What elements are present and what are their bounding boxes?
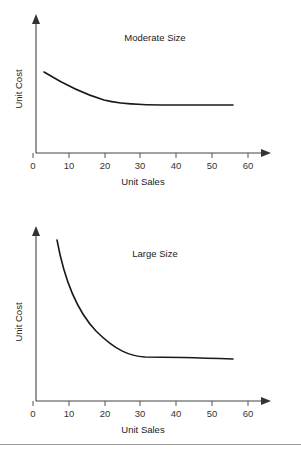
x-axis-title: Unit Sales (121, 176, 165, 187)
chart-large-size: 0 10 20 30 40 50 60 Unit Sales Unit Cost… (0, 212, 301, 444)
chart-moderate-size-canvas: 0 10 20 30 40 50 60 Unit Sales Unit Cost… (0, 0, 301, 200)
x-tick-label-50: 50 (207, 408, 218, 419)
chart-moderate-size: 0 10 20 30 40 50 60 Unit Sales Unit Cost… (0, 0, 301, 200)
x-axis-ticks (33, 401, 248, 406)
y-axis-title: Unit Cost (13, 302, 24, 341)
x-axis-arrow-icon (261, 149, 271, 157)
x-tick-label-30: 30 (135, 160, 146, 171)
y-axis-arrow-icon (32, 226, 40, 236)
x-tick-label-0: 0 (30, 160, 35, 171)
x-tick-label-40: 40 (171, 408, 182, 419)
x-tick-label-30: 30 (135, 408, 146, 419)
x-tick-label-50: 50 (207, 160, 218, 171)
x-axis-ticks (33, 153, 248, 158)
x-tick-label-10: 10 (64, 408, 75, 419)
x-axis-title: Unit Sales (121, 424, 165, 435)
y-axis-title: Unit Cost (13, 69, 24, 108)
x-tick-label-0: 0 (30, 408, 35, 419)
chart-title: Large Size (132, 248, 177, 259)
x-axis-arrow-icon (261, 397, 271, 405)
chart-title: Moderate Size (124, 32, 185, 43)
y-axis-arrow-icon (32, 14, 40, 24)
x-tick-label-40: 40 (171, 160, 182, 171)
x-tick-label-20: 20 (100, 408, 111, 419)
x-tick-label-10: 10 (64, 160, 75, 171)
footer-divider (0, 444, 301, 445)
x-tick-label-60: 60 (243, 160, 254, 171)
series-line-moderate-size (44, 72, 233, 105)
chart-large-size-canvas: 0 10 20 30 40 50 60 Unit Sales Unit Cost… (0, 212, 301, 444)
x-tick-label-20: 20 (100, 160, 111, 171)
x-tick-label-60: 60 (243, 408, 254, 419)
